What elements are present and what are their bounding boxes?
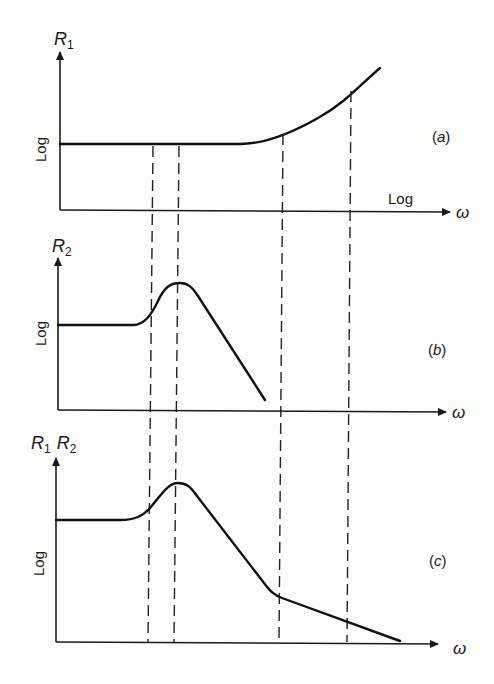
frequency-response-diagram: R1 Log Log ω (a) R2 Log ω (b) R1R2 Log ω… [0, 0, 494, 684]
y-scale-label-a: Log [32, 137, 49, 162]
guide-line-2 [174, 146, 179, 642]
x-axis-c [56, 642, 438, 644]
y-label-a: R1 [54, 29, 74, 52]
y-label-c: R1R2 [31, 433, 77, 456]
panel-b: R2 Log ω (b) [32, 236, 465, 422]
panel-tag-b: (b) [428, 341, 446, 358]
x-label-a: ω [456, 203, 469, 222]
guide-line-4 [347, 91, 351, 642]
x-label-c: ω [453, 639, 466, 658]
panel-tag-c: (c) [429, 552, 447, 569]
y-scale-label-c: Log [30, 551, 47, 576]
x-scale-label-a: Log [388, 190, 413, 207]
x-axis-b [58, 410, 446, 412]
panel-a: R1 Log Log ω (a) [32, 29, 469, 222]
panel-tag-a: (a) [432, 128, 450, 145]
x-label-b: ω [452, 403, 465, 422]
y-scale-label-b: Log [32, 321, 49, 346]
curve-r1 [60, 68, 380, 144]
dashed-guides [148, 91, 351, 642]
guide-line-3 [279, 134, 283, 642]
x-axis-a [60, 210, 450, 212]
panel-c: R1R2 Log ω (c) [30, 433, 466, 658]
guide-line-1 [148, 146, 153, 642]
y-label-b: R2 [52, 236, 72, 259]
curve-r2 [58, 283, 265, 400]
